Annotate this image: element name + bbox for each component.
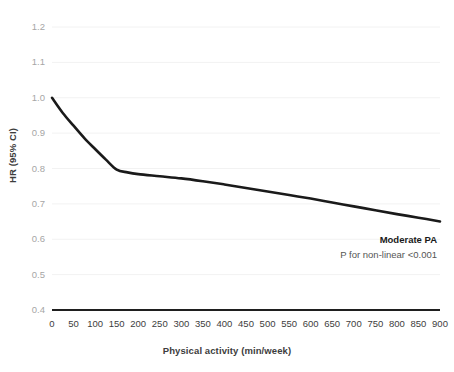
data-series-group xyxy=(52,98,440,222)
y-tick-label: 1.0 xyxy=(19,93,45,103)
x-axis-title: Physical activity (min/week) xyxy=(0,345,454,356)
y-tick-label: 1.1 xyxy=(19,57,45,67)
y-tick-label: 1.2 xyxy=(19,22,45,32)
y-tick-label: 0.5 xyxy=(19,270,45,280)
series-label-moderate-pa: Moderate PA xyxy=(380,234,437,245)
gridlines-group xyxy=(52,27,440,310)
y-tick-label: 0.7 xyxy=(19,199,45,209)
y-tick-label: 0.4 xyxy=(19,305,45,315)
y-tick-label: 0.8 xyxy=(19,164,45,174)
chart-plot-area xyxy=(0,0,454,372)
y-tick-label: 0.9 xyxy=(19,128,45,138)
x-tick-label: 900 xyxy=(425,319,454,329)
y-tick-label: 0.6 xyxy=(19,234,45,244)
y-axis-title: HR (95% CI) xyxy=(7,106,18,206)
chart-figure: 0.40.50.60.70.80.91.01.11.2 050100150200… xyxy=(0,0,454,372)
series-line-0 xyxy=(52,98,440,222)
p-value-annotation: P for non-linear <0.001 xyxy=(340,249,437,260)
